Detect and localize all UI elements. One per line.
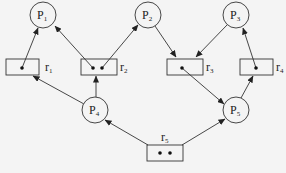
instance-dot (20, 66, 24, 70)
instance-dot (180, 66, 184, 70)
edge-r4-p3 (243, 28, 256, 68)
resource-r3: r3 (167, 59, 214, 75)
process-p3: P3 (223, 2, 249, 28)
edge-r5-p5 (182, 119, 225, 145)
resource-allocation-graph: P1 P2 P3 P4 P5 r1 r2 r3 r4 (0, 0, 286, 173)
svg-text:r5: r5 (161, 130, 169, 145)
svg-text:r1: r1 (45, 60, 53, 75)
svg-text:r2: r2 (120, 60, 128, 75)
edge-p4-r1 (33, 76, 84, 104)
process-p1: P1 (30, 2, 56, 28)
edge-r1-p1 (22, 28, 38, 68)
edge-r2-p1 (55, 26, 93, 68)
edge-p5-r4 (241, 76, 253, 98)
edge-p2-r3 (155, 26, 176, 57)
process-p2: P2 (135, 2, 161, 28)
instance-dot (254, 66, 258, 70)
edges (22, 25, 256, 145)
instance-dot (100, 66, 104, 70)
graph-svg: P1 P2 P3 P4 P5 r1 r2 r3 r4 (0, 0, 286, 173)
resource-r1: r1 (6, 59, 53, 75)
process-p4: P4 (82, 97, 108, 123)
process-p5: P5 (223, 97, 249, 123)
instance-dot (91, 66, 95, 70)
resource-r4: r4 (240, 59, 284, 75)
edge-r5-p4 (105, 120, 148, 145)
svg-text:r4: r4 (276, 60, 284, 75)
edge-p3-r3 (196, 25, 227, 57)
instance-dot (158, 151, 162, 155)
resource-r2: r2 (81, 59, 128, 75)
instance-dot (168, 151, 172, 155)
resource-r5: r5 (147, 130, 183, 161)
svg-text:r3: r3 (206, 60, 214, 75)
